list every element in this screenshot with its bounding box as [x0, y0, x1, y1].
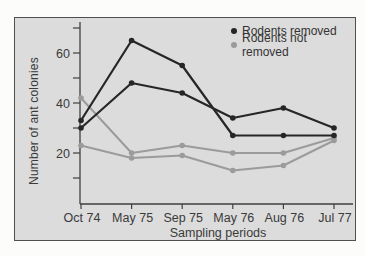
data-point-rodents-not-removed-2	[230, 168, 236, 174]
data-point-rodents-removed-1	[179, 63, 185, 69]
data-point-rodents-not-removed-2	[129, 155, 135, 161]
data-point-rodents-removed-2	[129, 80, 135, 86]
data-point-rodents-removed-2	[281, 105, 287, 111]
data-point-rodents-removed-2	[78, 125, 84, 131]
data-point-rodents-removed-1	[281, 133, 287, 139]
series-line-rodents-removed-2	[81, 83, 334, 128]
data-point-rodents-removed-1	[331, 133, 337, 139]
data-point-rodents-not-removed-1	[230, 150, 236, 156]
x-tick-label: Oct 74	[64, 211, 101, 225]
y-tick-label: 20	[56, 147, 70, 161]
figure: 204060Oct 74May 75Sep 75May 76Aug 76Jul …	[0, 0, 365, 256]
data-point-rodents-removed-2	[179, 90, 185, 96]
x-tick-label: Aug 76	[265, 211, 305, 225]
data-point-rodents-not-removed-2	[179, 153, 185, 159]
data-point-rodents-removed-2	[331, 125, 337, 131]
data-point-rodents-not-removed-1	[78, 95, 84, 101]
chart-panel: 204060Oct 74May 75Sep 75May 76Aug 76Jul …	[14, 17, 356, 241]
data-point-rodents-removed-1	[78, 118, 84, 124]
legend-item-rodents-not-removed: Rodents not removed	[231, 38, 355, 52]
legend-marker-dark-icon	[231, 28, 237, 34]
x-tick-label: May 75	[112, 211, 153, 225]
x-tick-label: Jul 77	[318, 211, 351, 225]
data-point-rodents-not-removed-1	[281, 150, 287, 156]
y-tick-label: 40	[56, 97, 70, 111]
y-axis-title: Number of ant colonies	[27, 21, 43, 221]
data-point-rodents-not-removed-1	[179, 143, 185, 149]
x-tick-label: May 76	[213, 211, 254, 225]
data-point-rodents-removed-2	[230, 115, 236, 121]
data-point-rodents-removed-1	[129, 38, 135, 44]
legend-marker-gray-icon	[231, 42, 237, 48]
legend: Rodents removed Rodents not removed	[231, 24, 355, 52]
legend-label-rodents-not-removed: Rodents not removed	[242, 31, 355, 59]
y-tick-label: 60	[56, 47, 70, 61]
data-point-rodents-not-removed-2	[78, 143, 84, 149]
x-tick-label: Sep 75	[163, 211, 203, 225]
data-point-rodents-removed-1	[230, 133, 236, 139]
data-point-rodents-not-removed-2	[281, 163, 287, 169]
x-axis-title: Sampling periods	[118, 226, 318, 242]
data-point-rodents-not-removed-1	[129, 150, 135, 156]
series-line-rodents-not-removed-2	[81, 141, 334, 171]
